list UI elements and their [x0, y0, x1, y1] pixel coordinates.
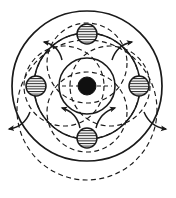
- nucleus: [78, 77, 96, 95]
- figure-root: Vintage line engraving of an atom: a dar…: [0, 0, 176, 198]
- electron-bottom: [77, 128, 97, 148]
- electron-right: [129, 76, 149, 96]
- atomic-model-diagram: [0, 0, 176, 198]
- electron-left: [26, 76, 46, 96]
- electron-top: [77, 24, 97, 44]
